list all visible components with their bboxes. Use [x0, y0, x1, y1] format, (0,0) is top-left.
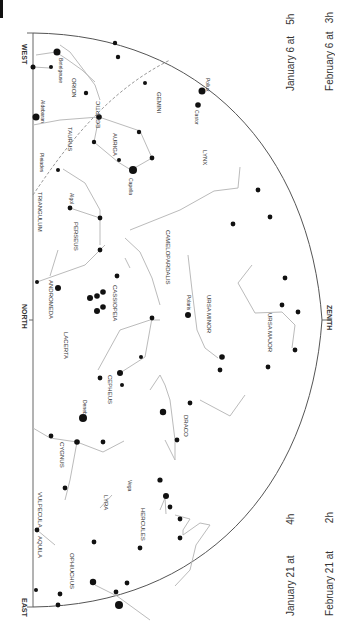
time-entry: January 21 at 4h	[284, 512, 297, 616]
constellation-label: CASSIOPEIA	[112, 285, 118, 321]
times-bottom: January 21 at 4h February 21 at 2h March…	[258, 512, 339, 616]
constellation-label: LACERTA	[63, 332, 69, 359]
constellation-label: CYGNUS	[59, 442, 65, 468]
constellation-label: TAURUS	[67, 127, 73, 151]
constellation-label: CEPHEUS	[107, 375, 113, 404]
constellation-label: ANDROMEDA	[48, 280, 54, 319]
constellation-label: TRIANGULUM	[37, 192, 43, 232]
star-label: Betelgeuse	[58, 58, 64, 83]
star-label: Deneb	[82, 400, 88, 415]
constellation-label: DRACO	[183, 415, 189, 437]
west-label: WEST	[21, 44, 28, 65]
ecliptic-label: ECLIPTIC	[95, 100, 101, 128]
constellation-label: LYNX	[202, 150, 208, 165]
star-label: Castor	[194, 110, 200, 125]
north-label: NORTH	[21, 304, 28, 329]
time-entry: February 21 at 2h	[323, 512, 336, 616]
constellation-label: ORION	[71, 78, 77, 98]
constellation-label: VULPECULA	[37, 492, 43, 528]
constellation-label: LYRA	[103, 495, 109, 510]
east-label: EAST	[21, 598, 28, 617]
constellation-label: URSA MAJOR	[267, 313, 273, 353]
constellation-label: HERCULES	[140, 508, 146, 541]
star-label: Vega	[127, 480, 133, 492]
times-top: January 6 at 5h February 6 at 3h March 6…	[258, 12, 339, 91]
star-label: Polaris	[186, 295, 192, 311]
constellation-label: CAMELOPARDALIS	[165, 230, 171, 285]
constellation-label: GEMINI	[156, 92, 162, 114]
star-label: Capella	[128, 178, 134, 195]
constellation-label: OPHIUCHUS	[69, 553, 75, 589]
time-entry: February 6 at 3h	[323, 12, 336, 91]
star-label: Pleiades	[39, 153, 45, 173]
constellation-label: URSA MINOR	[206, 295, 212, 334]
star-label: Algol	[69, 193, 75, 204]
constellation-label: PERSEUS	[73, 222, 79, 251]
constellation-label: AQUILA	[37, 536, 43, 558]
star-label: Pollux	[205, 78, 211, 92]
zenith-label: ZENITH	[326, 305, 333, 330]
time-entry: January 6 at 5h	[284, 12, 297, 91]
constellation-label: AURIGA	[112, 133, 118, 156]
star-label: Aldebaran	[40, 100, 46, 123]
